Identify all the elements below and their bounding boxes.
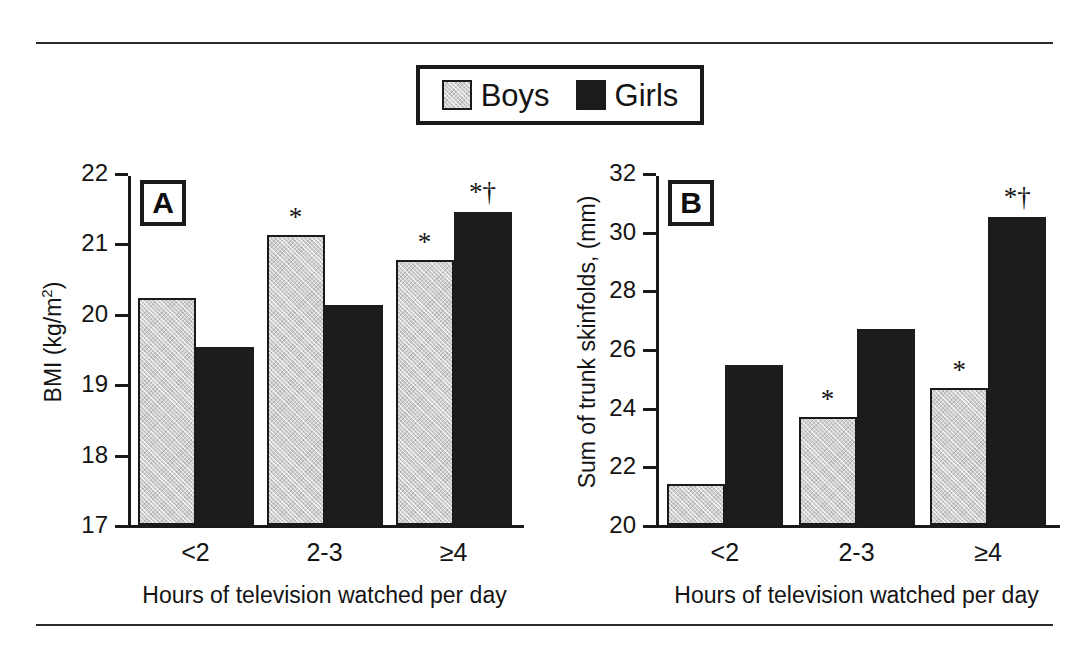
panel-a-y-tick: 21	[115, 243, 128, 246]
panel-b-bars: ***†	[659, 176, 1054, 525]
panel-b-x-tick-labels: <22-3≥4	[659, 538, 1054, 567]
bar-girls	[196, 347, 254, 525]
legend-swatch-boys-icon	[442, 80, 472, 110]
panel-a-plot-area: A 222120191817 ***† <22-3≥4 Hours of tel…	[128, 176, 518, 528]
panel-b-plot-area: B 32302826242220 ***† <22-3≥4 Hours of t…	[656, 176, 1054, 528]
bar-boys	[667, 484, 725, 525]
bar-group	[659, 176, 791, 525]
legend-item-boys: Boys	[442, 80, 550, 111]
x-tick-label: ≥4	[922, 538, 1054, 567]
bar-group: **†	[389, 176, 518, 525]
x-tick-label: <2	[659, 538, 791, 567]
panel-a-y-tick: 17	[115, 525, 128, 528]
panel-a-y-tick-label: 20	[81, 301, 108, 325]
significance-marker: *	[289, 204, 303, 231]
bar-group	[131, 176, 260, 525]
bar-girls	[325, 305, 383, 525]
significance-marker: *	[821, 386, 835, 413]
panel-a-y-tick: 19	[115, 384, 128, 387]
panel-a-y-axis-title: BMI (kg/m2)	[38, 142, 72, 542]
panel-b-y-tick-label: 28	[609, 278, 636, 302]
chart-panel-b: Sum of trunk skinfolds, (mm) B 323028262…	[556, 150, 1086, 620]
panel-b-y-tick-label: 22	[609, 454, 636, 478]
panel-b-y-tick-label: 30	[609, 219, 636, 243]
panel-a-y-tick-label: 17	[81, 513, 108, 537]
x-tick-label: <2	[131, 538, 260, 567]
panel-b-y-tick: 22	[643, 466, 656, 469]
panel-a-y-tick: 22	[115, 173, 128, 176]
panel-b-y-tick-label: 20	[609, 513, 636, 537]
figure-top-rule	[36, 42, 1053, 44]
significance-marker: *†	[469, 179, 496, 206]
bar-boys	[138, 298, 196, 525]
figure-bottom-rule	[36, 624, 1053, 626]
bar-boys: *	[930, 388, 988, 525]
panel-a-y-tick-label: 22	[81, 161, 108, 185]
x-tick-label: 2-3	[791, 538, 923, 567]
bar-girls: *†	[454, 212, 512, 525]
chart-legend: Boys Girls	[416, 65, 704, 125]
bar-group: **†	[922, 176, 1054, 525]
panel-a-bars: ***†	[131, 176, 518, 525]
panel-b-y-tick: 32	[643, 173, 656, 176]
panel-b-y-tick-label: 32	[609, 161, 636, 185]
panel-b-y-tick: 26	[643, 349, 656, 352]
legend-label-boys: Boys	[481, 80, 550, 111]
panel-b-y-tick: 30	[643, 232, 656, 235]
panel-b-y-tick: 24	[643, 408, 656, 411]
bar-boys: *	[799, 417, 857, 525]
panel-a-x-axis-title: Hours of television watched per day	[131, 582, 518, 609]
panel-b-y-tick: 28	[643, 290, 656, 293]
panel-a-y-tick: 20	[115, 314, 128, 317]
panel-b-y-tick-label: 26	[609, 337, 636, 361]
bar-group: *	[791, 176, 923, 525]
bar-girls	[857, 329, 915, 525]
panel-a-y-tick-label: 21	[81, 231, 108, 255]
bar-boys: *	[267, 235, 325, 525]
panel-b-x-axis-line	[656, 525, 1060, 528]
panel-a-y-tick: 18	[115, 455, 128, 458]
panel-b-y-axis-title: Sum of trunk skinfolds, (mm)	[572, 142, 606, 542]
x-tick-label: 2-3	[260, 538, 389, 567]
bar-girls	[725, 365, 783, 525]
panel-a-x-axis-line	[128, 525, 524, 528]
panel-a-x-tick-labels: <22-3≥4	[131, 538, 518, 567]
x-tick-label: ≥4	[389, 538, 518, 567]
significance-marker: *†	[1004, 184, 1031, 211]
bar-group: *	[260, 176, 389, 525]
chart-panel-a: BMI (kg/m2) A 222120191817 ***† <22-3≥4 …	[20, 150, 550, 620]
bar-girls: *†	[988, 217, 1046, 525]
bar-boys: *	[396, 260, 454, 525]
panel-b-y-tick-label: 24	[609, 395, 636, 419]
panel-b-x-axis-title: Hours of television watched per day	[659, 582, 1054, 609]
legend-label-girls: Girls	[615, 80, 679, 111]
legend-item-girls: Girls	[576, 80, 679, 111]
significance-marker: *	[418, 229, 432, 256]
legend-swatch-girls-icon	[576, 80, 606, 110]
panel-a-y-tick-label: 18	[81, 442, 108, 466]
panel-b-y-tick: 20	[643, 525, 656, 528]
significance-marker: *	[952, 357, 966, 384]
panel-a-y-tick-label: 19	[81, 372, 108, 396]
